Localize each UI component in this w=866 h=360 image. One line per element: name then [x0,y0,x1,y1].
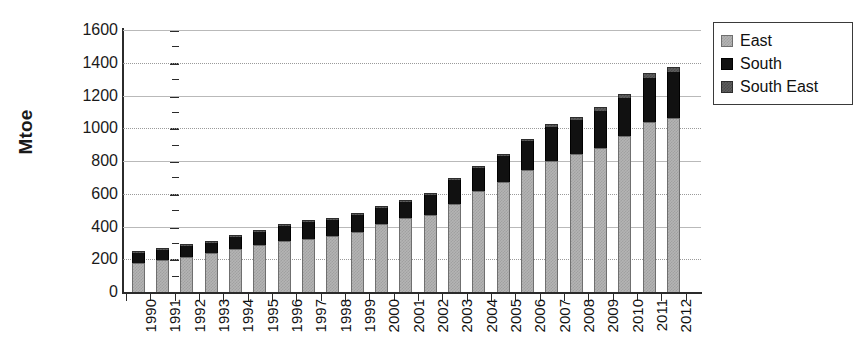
bar-segment-south [180,246,193,257]
bar-2005[interactable] [497,154,510,292]
bar-segment-east [326,236,339,292]
y-axis-tick-labels: 02004006008001000120014001600 [56,0,118,292]
bar-2002[interactable] [424,193,437,292]
x-tick-label: 1998 [339,299,353,355]
bar-segment-east [399,218,412,292]
bar-segment-south [351,215,364,232]
bar-1997[interactable] [302,220,315,292]
y-tick-label: 0 [66,284,118,300]
bar-1992[interactable] [180,244,193,292]
x-tick-label: 1997 [314,299,328,355]
bar-1993[interactable] [205,241,218,292]
y-tick-label: 800 [66,153,118,169]
x-tick-label: 2007 [558,299,572,355]
x-tick-label: 2011 [655,299,669,355]
bar-segment-south [326,220,339,236]
bar-segment-east [132,263,145,292]
bar-segment-east [521,170,534,292]
bar-2006[interactable] [521,139,534,292]
bar-segment-south [205,243,218,253]
legend-item-south[interactable]: South [721,52,842,75]
x-tick-label: 1991 [168,299,182,355]
bar-1990[interactable] [132,251,145,292]
bar-segment-south [424,195,437,215]
bar-segment-east [497,182,510,292]
bar-segment-east [351,232,364,292]
y-tick-label: 200 [66,251,118,267]
legend-label-south-east: South East [740,79,818,95]
bar-2009[interactable] [594,107,607,292]
legend-item-south-east[interactable]: South East [721,75,842,98]
bar-2008[interactable] [570,117,583,292]
y-tick-label: 1600 [66,22,118,38]
bar-segment-south [545,127,558,161]
x-tick-label: 1993 [217,299,231,355]
bar-segment-east [302,239,315,292]
bar-segment-south [643,78,656,122]
bar-2003[interactable] [448,178,461,292]
legend-label-east: East [740,33,772,49]
y-tick-label: 400 [66,219,118,235]
x-tick-label: 1996 [290,299,304,355]
bar-segment-south [448,180,461,204]
x-tick-label: 2004 [485,299,499,355]
x-tick-label: 2000 [387,299,401,355]
bar-1995[interactable] [253,230,266,292]
bar-2001[interactable] [399,200,412,292]
bar-1991[interactable] [156,248,169,292]
south-swatch-icon [721,58,733,70]
bars-layer [123,30,701,292]
bar-2011[interactable] [643,73,656,292]
x-tick-label: 2008 [582,299,596,355]
x-tick-label: 2001 [412,299,426,355]
legend-label-south: South [740,56,782,72]
bar-2010[interactable] [618,94,631,292]
x-tick-label: 2009 [606,299,620,355]
bar-segment-south [618,98,631,136]
bar-segment-south [375,208,388,224]
east-swatch-icon [721,35,733,47]
x-tick-label: 1995 [266,299,280,355]
bar-segment-south [570,120,583,154]
bar-segment-south [156,250,169,260]
bar-segment-south [302,222,315,238]
x-tick-label: 2005 [509,299,523,355]
south-east-swatch-icon [721,81,733,93]
bar-1994[interactable] [229,235,242,292]
chart-legend: East South South East [713,22,853,105]
x-tick-label: 2006 [533,299,547,355]
bar-2012[interactable] [667,67,680,292]
bar-1996[interactable] [278,224,291,292]
x-axis-labels: 1990199119921993199419951996199719981999… [123,303,701,359]
y-tick-label: 600 [66,186,118,202]
bar-1999[interactable] [351,213,364,292]
bar-segment-east [667,118,680,292]
y-tick-label: 1200 [66,88,118,104]
bar-2000[interactable] [375,206,388,292]
bar-segment-east [156,260,169,292]
bar-segment-east [643,122,656,292]
bar-segment-east [594,148,607,292]
bar-segment-east [375,224,388,292]
bar-segment-south [399,202,412,218]
x-tick-label: 2012 [679,299,693,355]
bar-segment-east [278,241,291,292]
bar-segment-east [545,161,558,292]
y-axis-title: Mtoe [14,77,38,187]
y-tick-label: 1400 [66,55,118,71]
bar-segment-east [253,245,266,292]
bar-segment-east [205,253,218,292]
bar-segment-south [253,232,266,244]
bar-2007[interactable] [545,124,558,292]
bar-1998[interactable] [326,218,339,292]
bar-segment-south [229,237,242,248]
x-tick-label: 1999 [363,299,377,355]
x-tick-label: 2003 [460,299,474,355]
x-tick-label: 1990 [144,299,158,355]
y-tick-label: 1000 [66,120,118,136]
x-tick-label: 1994 [241,299,255,355]
bar-segment-south [278,226,291,242]
bar-2004[interactable] [472,166,485,292]
legend-item-east[interactable]: East [721,29,842,52]
x-tick-label: 2010 [631,299,645,355]
